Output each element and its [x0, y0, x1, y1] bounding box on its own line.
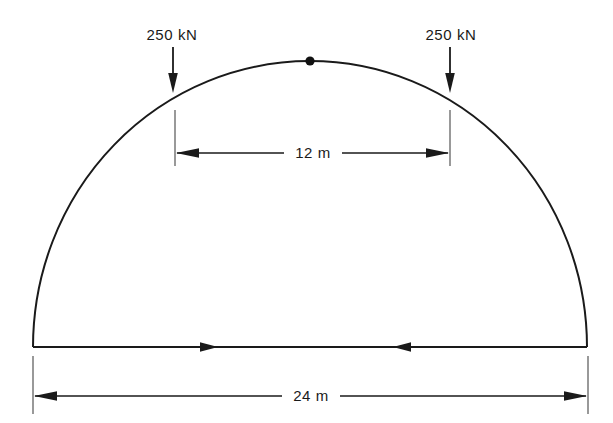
dim-arrowhead-12m-right	[426, 148, 449, 158]
tie-arrowhead-right	[393, 342, 411, 352]
dim-arrowhead-24m-right	[564, 391, 587, 401]
tie-arrowhead-left	[200, 342, 218, 352]
arch-curve	[33, 61, 587, 347]
dim-arrowhead-24m-left	[34, 391, 57, 401]
dim-arrowhead-12m-left	[176, 148, 199, 158]
crown-hinge-dot	[305, 56, 314, 65]
arch-diagram-canvas: 250 kN 250 kN 12 m 24 m	[0, 0, 613, 423]
load-arrowhead-left	[168, 73, 178, 93]
dim-label-12m: 12 m	[295, 144, 331, 161]
load-label-left: 250 kN	[146, 26, 197, 43]
structural-arch-diagram: 250 kN 250 kN 12 m 24 m	[0, 0, 613, 423]
dim-label-24m: 24 m	[293, 387, 329, 404]
load-label-right: 250 kN	[425, 26, 476, 43]
load-arrowhead-right	[445, 73, 455, 93]
